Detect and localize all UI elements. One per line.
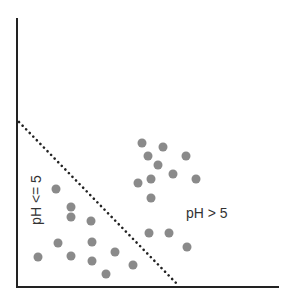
- data-point-left: [34, 253, 43, 262]
- data-point-right: [183, 243, 192, 252]
- data-points: [34, 139, 201, 279]
- data-point-right: [165, 229, 174, 238]
- data-point-left: [87, 217, 96, 226]
- data-point-right: [182, 152, 191, 161]
- data-point-left: [88, 257, 97, 266]
- region-label-ph-high: pH > 5: [186, 205, 228, 221]
- data-point-left: [67, 203, 76, 212]
- scatter-diagram: pH <= 5 pH > 5: [0, 0, 291, 306]
- data-point-right: [144, 152, 153, 161]
- data-point-left: [52, 185, 61, 194]
- data-point-left: [129, 261, 138, 270]
- data-point-right: [147, 175, 156, 184]
- data-point-right: [145, 229, 154, 238]
- data-point-right: [192, 175, 201, 184]
- region-label-ph-low: pH <= 5: [28, 175, 44, 225]
- data-point-left: [67, 213, 76, 222]
- data-point-right: [169, 170, 178, 179]
- data-point-right: [159, 143, 168, 152]
- data-point-left: [88, 238, 97, 247]
- data-point-left: [111, 248, 120, 257]
- data-point-left: [54, 239, 63, 248]
- data-point-right: [154, 161, 163, 170]
- data-point-right: [138, 139, 147, 148]
- data-point-right: [134, 179, 143, 188]
- data-point-left: [67, 252, 76, 261]
- data-point-left: [102, 270, 111, 279]
- data-point-right: [147, 194, 156, 203]
